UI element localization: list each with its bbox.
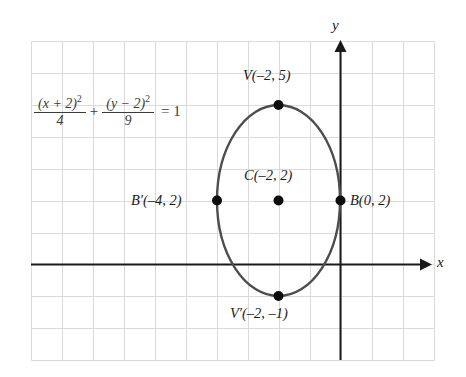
plus-operator: + xyxy=(90,104,98,119)
label-vertex-bottom: V′(–2, –1) xyxy=(230,306,288,321)
fraction-x-numerator: (x + 2)2 xyxy=(34,95,86,112)
label-vertex-top: V(–2, 5) xyxy=(243,68,291,83)
fraction-y-numerator-text: (y − 2) xyxy=(106,96,145,111)
fraction-x-term: (x + 2)2 4 xyxy=(34,95,86,128)
fraction-y-term: (y − 2)2 9 xyxy=(102,95,154,128)
point-covertex-right xyxy=(336,196,346,206)
y-axis-label: y xyxy=(332,18,339,33)
point-vertex-top xyxy=(274,100,284,110)
equation-tail: = 1 xyxy=(161,104,181,119)
label-center: C(–2, 2) xyxy=(244,168,292,183)
fraction-x-numerator-exponent: 2 xyxy=(77,94,82,104)
ellipse-figure: (x + 2)2 4 + (y − 2)2 9 = 1 y x V(–2, 5)… xyxy=(0,0,466,377)
label-covertex-left: B′(–4, 2) xyxy=(131,193,182,208)
fraction-y-numerator-exponent: 2 xyxy=(145,94,150,104)
plot-points xyxy=(212,100,346,301)
fraction-y-numerator: (y − 2)2 xyxy=(102,95,154,112)
point-center xyxy=(274,196,284,206)
point-covertex-left xyxy=(212,196,222,206)
fraction-y-denominator: 9 xyxy=(121,113,136,128)
point-vertex-bottom xyxy=(274,291,284,301)
fraction-x-denominator: 4 xyxy=(52,113,67,128)
fraction-x-numerator-text: (x + 2) xyxy=(38,96,77,111)
ellipse-equation: (x + 2)2 4 + (y − 2)2 9 = 1 xyxy=(33,95,181,128)
x-axis-label: x xyxy=(437,255,444,270)
label-covertex-right: B(0, 2) xyxy=(350,193,390,208)
